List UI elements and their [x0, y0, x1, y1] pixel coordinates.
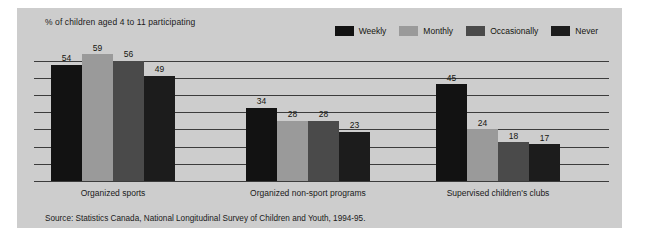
bar[interactable] [308, 121, 339, 181]
legend-item[interactable]: Never [551, 26, 598, 36]
bar[interactable] [339, 132, 370, 181]
legend-swatch-icon [399, 26, 418, 36]
chart-panel: % of children aged 4 to 11 participating… [17, 8, 622, 228]
chart-subtitle: % of children aged 4 to 11 participating [45, 17, 195, 27]
axis-baseline [34, 181, 609, 182]
bar-group: 45241817 [436, 52, 560, 181]
bar[interactable] [246, 108, 277, 181]
legend-label: Never [575, 26, 598, 36]
legend-label: Weekly [359, 26, 387, 36]
bar[interactable] [51, 65, 82, 181]
legend-swatch-icon [335, 26, 354, 36]
legend-swatch-icon [466, 26, 485, 36]
bar-column[interactable]: 49 [144, 52, 175, 181]
bar-value-label: 49 [130, 65, 190, 74]
chart-legend: WeeklyMonthlyOccasionallyNever [335, 26, 598, 36]
bar[interactable] [498, 142, 529, 181]
bar-column[interactable]: 23 [339, 52, 370, 181]
bar[interactable] [113, 61, 144, 181]
legend-item[interactable]: Occasionally [466, 26, 538, 36]
bar-value-label: 17 [515, 134, 575, 143]
bar[interactable] [82, 54, 113, 181]
bar-column[interactable]: 18 [498, 52, 529, 181]
category-label: Supervised children's clubs [447, 188, 550, 198]
bar[interactable] [529, 144, 560, 181]
bar-column[interactable]: 54 [51, 52, 82, 181]
bar-column[interactable]: 59 [82, 52, 113, 181]
bar-column[interactable]: 28 [308, 52, 339, 181]
category-label: Organized non-sport programs [250, 188, 366, 198]
bar-column[interactable]: 17 [529, 52, 560, 181]
plot-area: 545956493428282345241817 [34, 53, 609, 182]
source-note: Source: Statistics Canada, National Long… [45, 214, 365, 223]
legend-item[interactable]: Monthly [399, 26, 453, 36]
category-label: Organized sports [81, 188, 146, 198]
bar[interactable] [277, 121, 308, 181]
legend-item[interactable]: Weekly [335, 26, 387, 36]
bar[interactable] [144, 76, 175, 181]
bar-column[interactable]: 45 [436, 52, 467, 181]
bar[interactable] [436, 84, 467, 181]
legend-swatch-icon [551, 26, 570, 36]
legend-label: Occasionally [490, 26, 538, 36]
bar-value-label: 23 [325, 121, 385, 130]
bar-group: 34282823 [246, 52, 370, 181]
bar-column[interactable]: 24 [467, 52, 498, 181]
legend-label: Monthly [423, 26, 453, 36]
bar-group: 54595649 [51, 52, 175, 181]
